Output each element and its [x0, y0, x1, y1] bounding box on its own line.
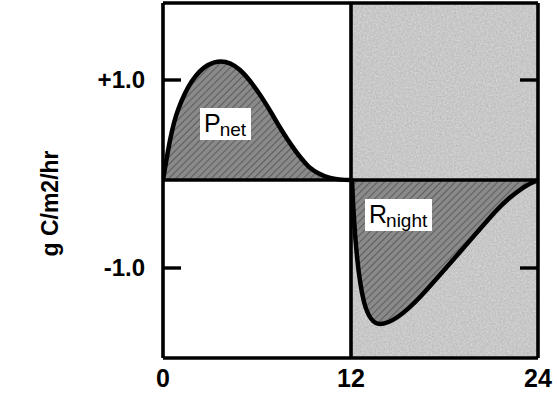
rnight-label-subscript: night: [386, 210, 427, 231]
pnet-label-base: P: [204, 109, 221, 137]
pnet-label: Pnet: [200, 108, 251, 140]
rnight-label-base: R: [369, 200, 387, 228]
rnight-label: Rnight: [365, 199, 432, 231]
pnet-label-subscript: net: [220, 119, 246, 140]
